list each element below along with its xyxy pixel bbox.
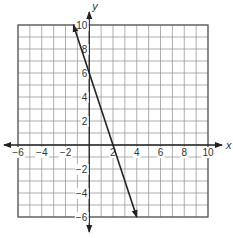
x-tick-label: −4 (36, 147, 48, 158)
x-tick-label: 4 (134, 147, 140, 158)
x-tick-label: −2 (60, 147, 72, 158)
x-tick-label: −6 (12, 147, 24, 158)
coordinate-plane: −6−4−2246810−6−4−2246810 x y (0, 0, 233, 238)
y-axis-label: y (91, 0, 99, 12)
grid-lines (18, 25, 208, 217)
x-tick-label: 8 (181, 147, 187, 158)
x-tick-label: 6 (158, 147, 164, 158)
y-tick-label: −4 (76, 188, 88, 199)
y-tick-label: 6 (82, 68, 88, 79)
x-tick-label: 10 (202, 147, 214, 158)
x-axis-label: x (225, 139, 232, 151)
y-tick-label: −2 (76, 164, 88, 175)
y-tick-label: 4 (82, 92, 88, 103)
y-tick-label: 10 (76, 20, 88, 31)
y-tick-label: −6 (76, 212, 88, 223)
y-tick-label: 2 (82, 116, 88, 127)
